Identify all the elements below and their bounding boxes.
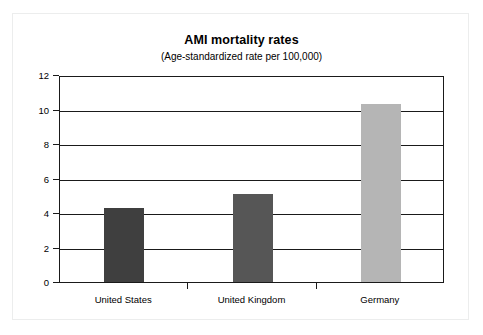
chart-title: AMI mortality rates xyxy=(0,33,483,47)
y-tick-label: 4 xyxy=(19,209,49,219)
chart-figure: AMI mortality rates (Age-standardized ra… xyxy=(0,0,483,335)
y-tick-mark xyxy=(53,248,59,249)
y-tick-label: 10 xyxy=(19,106,49,116)
bar xyxy=(104,208,144,282)
y-tick-mark xyxy=(53,144,59,145)
y-tick-mark xyxy=(53,110,59,111)
x-tick-mark xyxy=(187,283,188,289)
y-tick-label: 6 xyxy=(19,175,49,185)
x-tick-label: United Kingdom xyxy=(218,295,286,305)
y-tick-mark xyxy=(53,213,59,214)
y-tick-label: 12 xyxy=(19,71,49,81)
plot-area xyxy=(59,76,444,283)
bar xyxy=(361,104,401,282)
bar xyxy=(233,194,273,282)
chart-subtitle: (Age-standardized rate per 100,000) xyxy=(0,51,483,62)
x-tick-label: United States xyxy=(95,295,152,305)
y-tick-mark xyxy=(53,282,59,283)
x-tick-mark xyxy=(316,283,317,289)
y-tick-label: 8 xyxy=(19,140,49,150)
x-tick-label: Germany xyxy=(360,295,399,305)
y-tick-mark xyxy=(53,179,59,180)
y-tick-mark xyxy=(53,75,59,76)
y-tick-label: 0 xyxy=(19,278,49,288)
y-tick-label: 2 xyxy=(19,244,49,254)
